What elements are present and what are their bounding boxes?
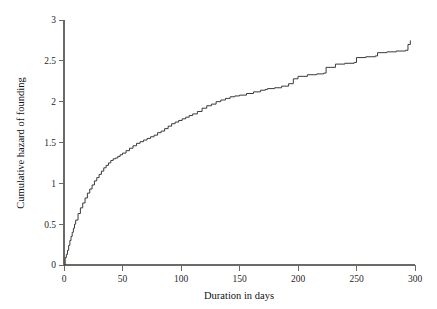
x-tick-label: 0	[62, 274, 67, 284]
y-axis-title: Cumulative hazard of founding	[15, 77, 26, 209]
x-tick-label: 300	[408, 274, 423, 284]
y-tick-label: 1	[51, 179, 56, 189]
x-tick-label: 100	[174, 274, 189, 284]
y-tick-label: 2	[51, 97, 56, 107]
y-tick-label: 1.5	[44, 138, 56, 148]
x-tick-label: 200	[291, 274, 306, 284]
x-axis-title: Duration in days	[204, 290, 274, 301]
chart-figure: 0 0.5 1 1.5 2 2.5 3 0 50 100 150	[0, 0, 437, 309]
y-tick-label: 2.5	[44, 56, 56, 66]
y-tick-label: 0.5	[44, 220, 56, 230]
x-tick-label: 50	[118, 274, 128, 284]
x-tick-label: 150	[232, 274, 247, 284]
y-tick-label: 0	[51, 260, 56, 270]
cumulative-hazard-chart: 0 0.5 1 1.5 2 2.5 3 0 50 100 150	[0, 0, 437, 309]
x-tick-label: 250	[349, 274, 364, 284]
y-tick-label: 3	[51, 15, 56, 25]
